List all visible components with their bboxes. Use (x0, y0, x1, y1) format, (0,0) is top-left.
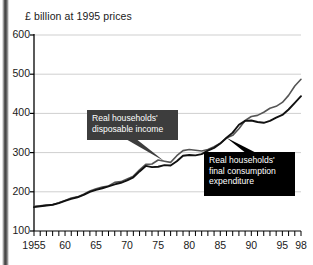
y-axis-label: 200 (4, 185, 30, 197)
annotation-pointer-income (128, 140, 165, 161)
annotation-line-3: expenditure (209, 176, 290, 187)
x-axis-label: 85 (205, 239, 235, 251)
y-axis-label: 100 (4, 224, 30, 236)
x-axis-label: 60 (50, 239, 80, 251)
annotation-line-1: Real households' (209, 155, 290, 166)
annotation-disposable-income: Real households' disposable income (87, 110, 178, 140)
x-axis-label: 1955 (19, 239, 49, 251)
y-axis-label: 500 (4, 67, 30, 79)
x-axis-label: 98 (286, 239, 313, 251)
x-axis-label: 70 (112, 239, 142, 251)
y-axis-label: 400 (4, 106, 30, 118)
x-axis-label: 65 (81, 239, 111, 251)
annotation-line-2: disposable income (92, 124, 173, 135)
annotation-pointer-expenditure (226, 138, 254, 152)
chart-figure: £ billion at 1995 prices Real households… (0, 0, 313, 265)
x-axis-label: 75 (143, 239, 173, 251)
annotation-line-2: final consumption (209, 166, 290, 177)
annotation-final-consumption-expenditure: Real households' final consumption expen… (204, 152, 295, 196)
annotation-line-1: Real households' (92, 113, 173, 124)
y-axis-label: 600 (4, 28, 30, 40)
y-axis-label: 300 (4, 146, 30, 158)
x-axis-label: 90 (236, 239, 266, 251)
x-axis-label: 80 (174, 239, 204, 251)
